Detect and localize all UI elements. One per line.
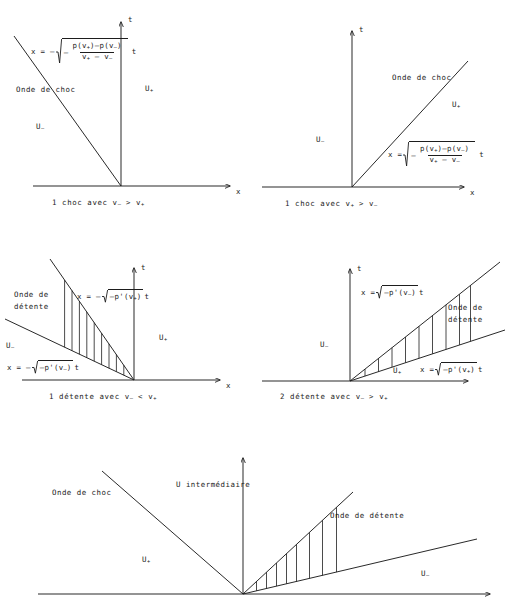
fig3-upper-lhs: x = – (77, 292, 101, 301)
fig3-upper-trailing: t (144, 292, 149, 301)
fig4-upper-radicand: –p'(v–) (382, 285, 418, 299)
fig4-t-axis-label: t (357, 264, 361, 273)
fig5-region-right-label: U– (421, 569, 429, 579)
fig3-x-axis-label: x (226, 381, 230, 390)
fig4-upper-lhs: x = (361, 288, 375, 297)
radical-hook-icon (32, 360, 38, 374)
fig2-shock-speed-formula: x = – p(v+)–p(v–) v+ – v– t (388, 141, 484, 167)
figure-vector-layer (0, 0, 513, 607)
fig4-lower-trailing: t (478, 365, 483, 374)
fig2-caption: 1 choc avec v+ > v– (285, 199, 377, 208)
fig4-wave-label-line1: Onde de (448, 303, 483, 312)
fig4-region-right-label: U+ (393, 366, 401, 376)
fig3-tail-speed-formula: x = – –p'(v–) t (7, 360, 79, 374)
fig3-wave-label-line1: Onde de (14, 290, 49, 299)
fig4-upper-radicand-text: –p'(v–) (384, 288, 416, 297)
fig3-head-speed-formula: x = – –p'(v+) t (77, 289, 149, 303)
fig2-formula-trailing: t (479, 150, 484, 159)
fig3-upper-radicand: –p'(v+) (108, 289, 144, 303)
fig1-numerator: p(v+)–p(v–) (71, 42, 124, 51)
radical-hook-icon (102, 289, 108, 303)
fig2-radical: – p(v+)–p(v–) v+ – v– (403, 141, 475, 167)
fig3-lower-lhs: x = – (7, 363, 31, 372)
fig1-radical: – p(v+)–p(v–) v+ – v– (56, 38, 128, 64)
radical-hook-icon (376, 285, 382, 299)
fig1-denominator: v+ – v– (80, 52, 114, 62)
fig1-formula-trailing: t (132, 47, 137, 56)
fig1-radicand-sign: – (64, 48, 69, 57)
fig5-rarefaction-tail (243, 539, 477, 594)
fig2-radicand-sign: – (411, 151, 416, 160)
fig3-lower-trailing: t (74, 363, 79, 372)
fig5-shock-line (102, 471, 243, 594)
fig2-region-right-label: U+ (452, 100, 460, 110)
fig4-upper-radical: –p'(v–) (376, 285, 418, 299)
fig5-hatching (257, 507, 337, 591)
fig3-upper-radicand-text: –p'(v+) (110, 292, 142, 301)
radical-hook-icon (435, 362, 441, 376)
fig4-wave-label-line2: détente (448, 315, 483, 324)
fig4-lower-radicand-text: –p'(v+) (443, 365, 475, 374)
figure-plate: t x x = – – p(v+)–p(v–) v+ – v– t Onde d… (0, 0, 513, 607)
fig3-wave-label-line2: détente (14, 302, 49, 311)
fig2-shock-wave-label: Onde de choc (392, 73, 451, 82)
fig2-formula-lhs: x = (388, 150, 402, 159)
fig1-radicand: – p(v+)–p(v–) v+ – v– (62, 38, 128, 64)
fig5-rarefaction-wave-label: Onde de détente (330, 511, 404, 520)
fig3-region-right-label: U+ (159, 333, 167, 343)
fig3-lower-radical: –p'(v–) (32, 360, 74, 374)
fig3-caption: 1 détente avec v– < v+ (49, 392, 156, 401)
radical-hook-icon (403, 141, 409, 167)
fig2-x-axis-label: x (470, 188, 474, 197)
fig2-denominator: v+ – v– (428, 155, 462, 165)
fig5-region-left-label: U+ (142, 555, 150, 565)
fig3-lower-radicand-text: –p'(v–) (40, 363, 72, 372)
fig4-tail-speed-formula: x = –p'(v+) t (420, 362, 483, 376)
fig2-region-left-label: U– (316, 135, 324, 145)
fig1-fraction: p(v+)–p(v–) v+ – v– (71, 42, 124, 61)
fig2-radicand: – p(v+)–p(v–) v+ – v– (409, 141, 475, 167)
fig4-lower-radicand: –p'(v+) (441, 362, 477, 376)
fig1-caption: 1 choc avec v– > v+ (52, 198, 144, 207)
fig1-shock-speed-formula: x = – – p(v+)–p(v–) v+ – v– t (31, 38, 136, 64)
fig4-upper-trailing: t (419, 288, 424, 297)
fig1-t-axis-label: t (128, 15, 132, 24)
fig3-region-left-label: U– (6, 341, 14, 351)
fig4-lower-radical: –p'(v+) (435, 362, 477, 376)
radical-hook-icon (56, 38, 62, 64)
fig1-shock-wave-label: Onde de choc (16, 85, 75, 94)
fig2-t-axis-label: t (359, 25, 363, 34)
fig3-upper-radical: –p'(v+) (102, 289, 144, 303)
fig4-caption: 2 détente avec v– > v+ (280, 392, 387, 401)
fig1-region-right-label: U+ (145, 84, 153, 94)
fig2-numerator: p(v+)–p(v–) (418, 145, 471, 154)
fig3-lower-radicand: –p'(v–) (38, 360, 74, 374)
fig4-lower-lhs: x = (420, 365, 434, 374)
fig1-formula-lhs: x = – (31, 47, 55, 56)
fig4-region-left-label: U– (320, 340, 328, 350)
fig3-t-axis-label: t (141, 263, 145, 272)
fig4-head-speed-formula: x = –p'(v–) t (361, 285, 424, 299)
fig5-center-label: U intermédiaire (176, 480, 250, 489)
fig1-region-left-label: U– (36, 122, 44, 132)
fig2-fraction: p(v+)–p(v–) v+ – v– (418, 145, 471, 164)
fig1-x-axis-label: x (236, 187, 240, 196)
fig5-shock-wave-label: Onde de choc (52, 488, 111, 497)
